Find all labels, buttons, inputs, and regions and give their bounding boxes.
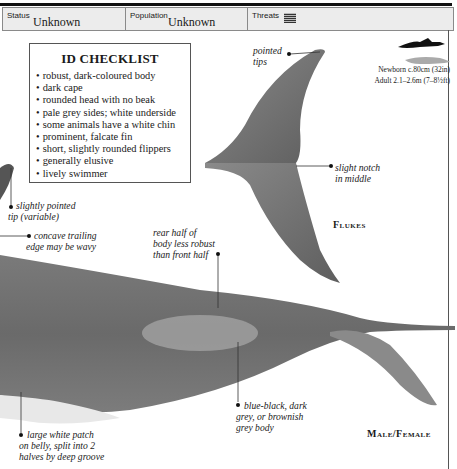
checklist-item: rounded head with no beak	[36, 94, 190, 106]
annotation-line: rear half of	[153, 227, 215, 238]
annotation-white-patch: large white patch on belly, split into 2…	[19, 429, 104, 462]
annotation-line: grey body	[236, 422, 307, 433]
annotation-line: concave trailing	[26, 230, 97, 241]
annotation-line: slightly pointed	[8, 200, 75, 211]
human-swimmer-icon	[398, 38, 445, 48]
checklist-item: dark cape	[36, 82, 190, 94]
body-tail-fluke	[330, 330, 437, 405]
dorsal-fin-fragment	[0, 164, 14, 200]
checklist-item: pale grey sides; white underside	[36, 107, 190, 119]
id-checklist: ID CHECKLIST robust, dark-coloured body …	[29, 43, 191, 183]
annotation-slight-notch: slight notch in middle	[335, 162, 380, 184]
checklist-item: robust, dark-coloured body	[36, 70, 190, 82]
checklist-item: some animals have a white chin	[36, 119, 190, 131]
leader-dot	[287, 52, 291, 56]
annotation-line: on belly, split into 2	[19, 440, 104, 451]
checklist-item: generally elusive	[36, 155, 190, 167]
checklist-item: short, slightly rounded flippers	[36, 143, 190, 155]
leader-dot	[236, 403, 240, 407]
leader-dot	[329, 164, 333, 168]
annotation-line: than front half	[153, 249, 215, 260]
fluke-lower	[205, 163, 340, 283]
annotation-line: in middle	[335, 173, 380, 184]
annotation-line: body less robust	[153, 238, 215, 249]
annotation-concave-trailing: concave trailing edge may be wavy	[26, 230, 97, 252]
annotation-line: tips	[253, 56, 282, 67]
leader-dot	[9, 205, 13, 209]
annotation-line: halves by deep groove	[19, 451, 104, 462]
adult-size: Adult 2.1–2.6m (7–8½ft)	[370, 75, 450, 86]
annotation-pointed-tips: pointed tips	[253, 45, 282, 67]
checklist-title: ID CHECKLIST	[30, 44, 190, 67]
newborn-size: Newborn c.80cm (32in)	[370, 64, 450, 75]
checklist-item: lively swimmer	[36, 168, 190, 180]
annotation-line: grey, or brownish	[236, 411, 307, 422]
annotation-line: edge may be wavy	[26, 241, 97, 252]
checklist-item: prominent, falcate fin	[36, 131, 190, 143]
checklist-items: robust, dark-coloured body dark cape rou…	[36, 70, 190, 180]
annotation-line: blue-black, dark	[236, 400, 307, 411]
annotation-line: slight notch	[335, 162, 380, 173]
annotation-line: tip (variable)	[8, 211, 75, 222]
dolphin-size-icon	[405, 57, 450, 64]
annotation-rear-half: rear half of body less robust than front…	[153, 227, 215, 260]
male-female-label: Male/Female	[367, 428, 431, 439]
annotation-line: large white patch	[19, 429, 104, 440]
annotation-slightly-pointed-tip: slightly pointed tip (variable)	[8, 200, 75, 222]
size-scale: Newborn c.80cm (32in) Adult 2.1–2.6m (7–…	[370, 64, 450, 86]
annotation-blue-black: blue-black, dark grey, or brownish grey …	[236, 400, 307, 433]
flukes-label: Flukes	[333, 219, 366, 230]
leader-dot	[216, 252, 220, 256]
leader-dot	[27, 234, 31, 238]
flank-patch	[142, 315, 258, 351]
annotation-line: pointed	[253, 45, 282, 56]
leader-dot	[19, 433, 23, 437]
